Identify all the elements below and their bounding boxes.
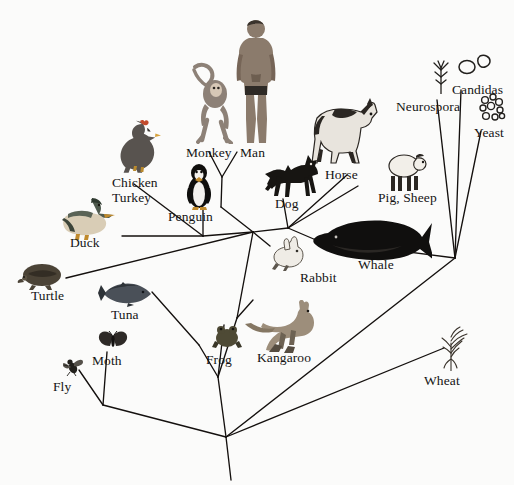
taxon-label-fly: Fly bbox=[53, 380, 71, 395]
taxon-label-penguin: Penguin bbox=[168, 210, 213, 225]
taxon-label-kangaroo: Kangaroo bbox=[257, 351, 311, 366]
edge-mammal-stem bbox=[253, 228, 288, 232]
taxon-label-tuna: Tuna bbox=[111, 308, 139, 323]
edge-whale bbox=[288, 228, 316, 240]
edge-primates-down bbox=[221, 207, 253, 232]
taxon-label-dog: Dog bbox=[275, 197, 299, 212]
taxon-label-whale: Whale bbox=[358, 258, 394, 273]
taxon-label-monkey: Monkey bbox=[186, 146, 232, 161]
taxon-label-pig-sheep: Pig, Sheep bbox=[378, 191, 437, 206]
taxon-label-moth: Moth bbox=[92, 354, 122, 369]
taxon-label-horse: Horse bbox=[325, 168, 358, 183]
taxon-label-neurospora: Neurospora bbox=[396, 100, 460, 115]
edge-fly bbox=[79, 370, 103, 405]
taxon-label-duck: Duck bbox=[70, 236, 100, 251]
edge-amniote-down bbox=[237, 232, 253, 318]
edge-fungi-root bbox=[226, 258, 455, 437]
edge-insect-stem bbox=[103, 405, 226, 437]
edge-rabbit bbox=[253, 232, 270, 246]
edge-root-trunk bbox=[226, 437, 231, 480]
taxon-label-rabbit: Rabbit bbox=[300, 271, 337, 286]
taxon-label-man: Man bbox=[240, 146, 265, 161]
taxon-label-candidas: Candidas bbox=[452, 83, 503, 98]
taxon-label-turtle: Turtle bbox=[31, 289, 64, 304]
edge-vert-root bbox=[218, 377, 226, 437]
taxon-label-chicken-turkey: Chicken Turkey bbox=[112, 176, 158, 205]
edge-tuna bbox=[152, 292, 199, 345]
taxon-label-wheat: Wheat bbox=[424, 374, 460, 389]
edge-primates-stem bbox=[221, 177, 222, 207]
phylogenetic-tree-figure: Chicken TurkeyMonkeyManHorseNeurosporaCa… bbox=[0, 0, 514, 485]
edge-neurospora bbox=[437, 100, 455, 258]
taxon-label-frog: Frog bbox=[206, 353, 232, 368]
taxon-label-yeast: Yeast bbox=[474, 126, 504, 141]
edge-fungi-whale bbox=[316, 240, 455, 258]
